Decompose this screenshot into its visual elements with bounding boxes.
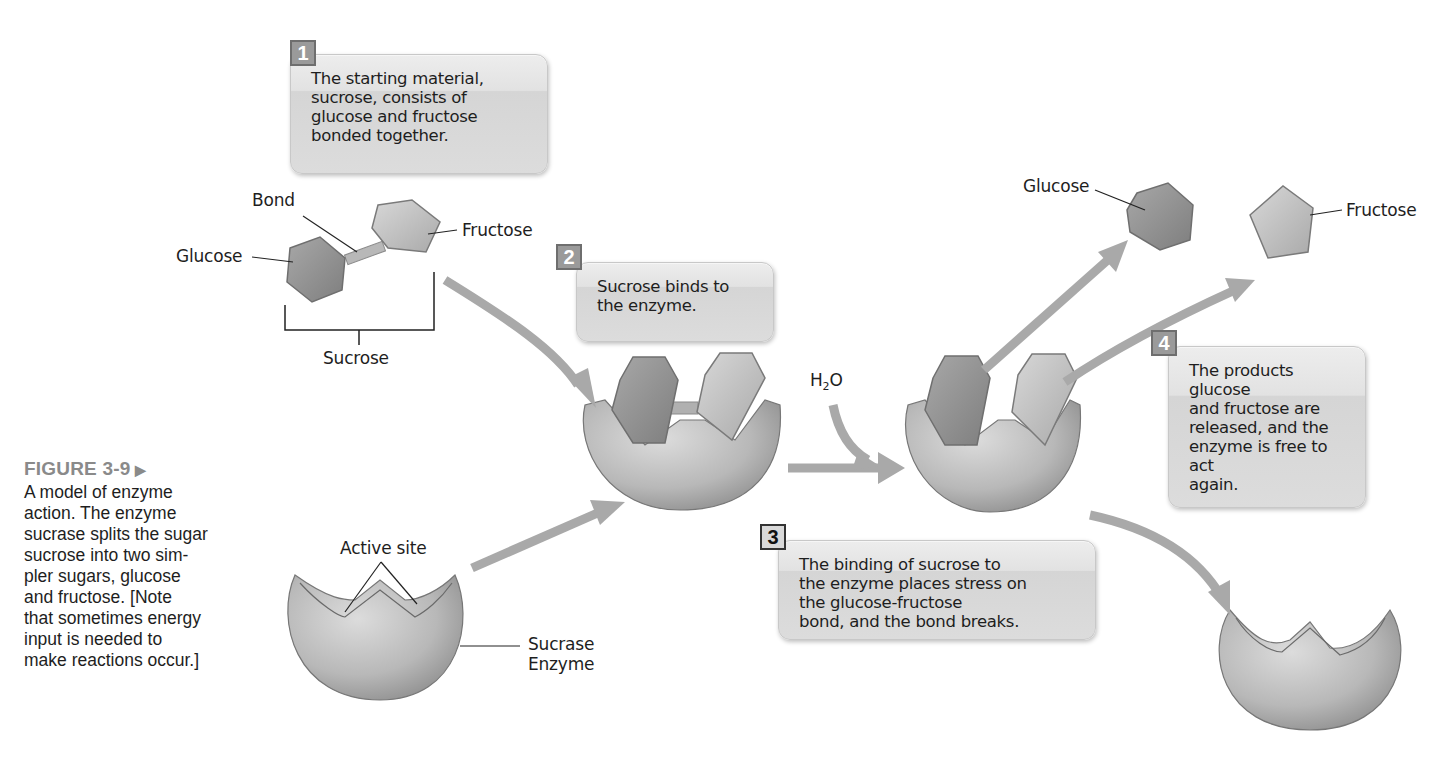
enzyme-substrate-complex [583, 353, 780, 510]
figure-caption-text: A model of enzyme action. The enzyme suc… [24, 482, 264, 671]
figure-caption: FIGURE 3-9▶ A model of enzyme action. Th… [24, 458, 264, 671]
glucose-product [1127, 183, 1193, 250]
step-1-badge: 1 [290, 40, 316, 66]
label-glucose: Glucose [176, 246, 242, 266]
step-2-badge: 2 [556, 244, 582, 270]
label-product-fructose: Fructose [1346, 200, 1416, 220]
free-enzyme [288, 562, 520, 700]
label-product-glucose: Glucose [1023, 176, 1089, 196]
step-1-text: The starting material, sucrose, consists… [311, 69, 533, 145]
enzyme-bond-breaking [906, 354, 1081, 512]
step-3-callout: The binding of sucrose to the enzyme pla… [778, 540, 1096, 640]
step-4-text: The products glucose and fructose are re… [1189, 361, 1351, 494]
label-water: H2O [810, 370, 843, 393]
label-sucrose: Sucrose [323, 348, 389, 368]
figure-number: FIGURE 3-9▶ [24, 458, 264, 480]
step-2-text: Sucrose binds to the enzyme. [597, 277, 759, 315]
sucrose-molecule [252, 200, 457, 345]
step-4-badge: 4 [1151, 330, 1177, 356]
label-active-site: Active site [340, 538, 427, 558]
step-3-badge: 3 [760, 524, 786, 550]
label-sucrase-enzyme: Sucrase Enzyme [528, 634, 594, 674]
arrow-to-binding [445, 280, 578, 385]
step-4-callout: The products glucose and fructose are re… [1168, 346, 1366, 508]
arrow-glucose-release [984, 258, 1110, 370]
arrow-enzyme-recycle [1090, 515, 1222, 598]
recycled-enzyme [1219, 610, 1401, 730]
step-2-callout: Sucrose binds to the enzyme. [576, 262, 774, 342]
step-1-callout: The starting material, sucrose, consists… [290, 54, 548, 174]
fructose-product [1250, 186, 1313, 258]
label-bond: Bond [252, 190, 295, 210]
released-products [1095, 183, 1342, 258]
arrow-water [833, 405, 868, 460]
bond-shape [344, 241, 385, 264]
arrow-enzyme-to-complex [472, 512, 600, 568]
glucose-hexagon [287, 237, 345, 302]
step-3-text: The binding of sucrose to the enzyme pla… [799, 555, 1081, 631]
label-fructose: Fructose [462, 220, 532, 240]
triangle-right-icon: ▶ [135, 462, 146, 478]
